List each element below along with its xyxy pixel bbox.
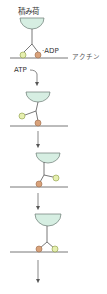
stage-3 xyxy=(10,153,68,187)
atp-arrow xyxy=(30,70,37,84)
stage-2 xyxy=(10,92,68,126)
atp-label: ATP xyxy=(14,67,27,74)
myosin-head-yellow xyxy=(19,113,25,119)
actin-label: アクチン xyxy=(72,54,100,61)
leg-right xyxy=(44,175,53,177)
cargo-bowl xyxy=(20,18,44,29)
myosin-head-orange xyxy=(35,52,41,58)
leg-right xyxy=(36,111,38,121)
leg-right xyxy=(32,44,38,52)
myosin-head-orange xyxy=(35,120,41,126)
myosin-head-orange xyxy=(36,246,42,252)
leg-left xyxy=(40,175,44,182)
leg-left xyxy=(24,44,32,52)
stem xyxy=(36,102,38,111)
cargo-bowl xyxy=(35,214,61,226)
leg-left xyxy=(25,111,36,115)
cargo-bowl xyxy=(36,153,60,163)
stage-1 xyxy=(10,18,68,58)
stage-4 xyxy=(10,214,68,252)
myosin-head-yellow xyxy=(52,246,58,252)
myosin-head-yellow xyxy=(53,175,59,181)
cargo-label: 積み荷 xyxy=(18,8,39,16)
cargo-bowl xyxy=(26,92,50,102)
myosin-walking-diagram xyxy=(0,0,107,294)
myosin-head-yellow xyxy=(20,52,26,58)
adp-label: ·ADP xyxy=(42,48,59,55)
myosin-head-orange xyxy=(36,181,42,187)
